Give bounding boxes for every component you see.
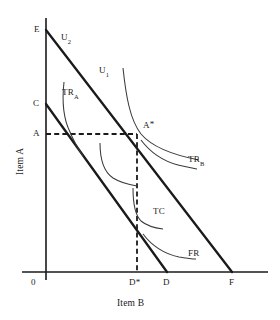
x-tick-label-D-star: D* (129, 278, 140, 287)
curve-label-TC: TC (153, 207, 165, 216)
curve-label-TR-B-base: TR (188, 154, 200, 164)
point-label-A-star-base: A (143, 120, 150, 130)
curve-label-U2-base: U (61, 32, 68, 42)
y-tick-label-C: C (33, 99, 39, 108)
economics-indifference-curve-figure: E C A 0 D* D F Item B Item A U2 U1 TRA T… (0, 0, 280, 320)
curve-label-TR-B: TRB (188, 155, 204, 166)
y-axis-title: Item A (16, 148, 26, 175)
point-label-A-star-asterisk: * (150, 119, 155, 129)
curve-label-TR-A-base: TR (62, 87, 74, 97)
x-axis-title: Item B (117, 299, 144, 309)
plot-canvas (0, 0, 280, 320)
y-tick-label-A: A (33, 129, 40, 138)
curve-label-TR-A: TRA (62, 88, 79, 99)
curve-label-FR: FR (188, 249, 199, 258)
origin-label: 0 (31, 278, 36, 287)
curve-label-TR-B-subscript: B (200, 160, 205, 167)
point-label-A-star: A* (143, 121, 154, 130)
curve-label-U1: U1 (99, 66, 109, 77)
curve-label-TC-base: TC (153, 206, 165, 216)
upper-budget-line-EF (46, 30, 232, 272)
curve-label-U1-base: U (99, 65, 106, 75)
x-tick-label-F: F (229, 278, 234, 287)
curve-label-U1-subscript: 1 (106, 71, 109, 78)
curve-label-U2-subscript: 2 (68, 38, 71, 45)
curve-label-FR-base: FR (188, 248, 199, 258)
indifference-curve-lower (100, 143, 137, 186)
x-tick-label-D: D (163, 278, 170, 287)
y-tick-label-E: E (34, 25, 40, 34)
curve-label-TR-A-subscript: A (74, 93, 79, 100)
curve-label-U2: U2 (61, 33, 71, 44)
